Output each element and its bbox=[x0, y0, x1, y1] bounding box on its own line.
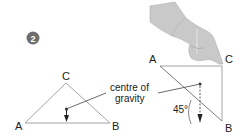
hand-illustration bbox=[150, 2, 223, 64]
diagram-canvas: 2 A C B centre of gravity 45° A C B bbox=[0, 0, 242, 139]
right-vertex-c: C bbox=[225, 53, 233, 65]
annotation-line2: gravity bbox=[115, 93, 144, 104]
right-vertex-a: A bbox=[149, 53, 157, 65]
left-triangle: A C B bbox=[15, 70, 119, 132]
angle-arc bbox=[189, 100, 192, 124]
right-vertex-b: B bbox=[225, 122, 232, 134]
step-badge: 2 bbox=[27, 32, 40, 45]
left-vertex-a: A bbox=[15, 120, 23, 132]
left-vertex-b: B bbox=[112, 120, 119, 132]
step-number: 2 bbox=[30, 34, 35, 44]
right-centre-of-gravity-dot bbox=[198, 82, 201, 85]
arrow-down-icon bbox=[64, 115, 69, 122]
centre-of-gravity-label: centre of gravity bbox=[110, 82, 149, 104]
left-leader-line bbox=[68, 93, 107, 109]
right-leader-line bbox=[158, 85, 198, 94]
right-triangle: 45° A C B bbox=[149, 53, 233, 134]
annotation-line1: centre of bbox=[110, 82, 149, 93]
left-vertex-c: C bbox=[62, 70, 70, 82]
arrow-down-icon bbox=[198, 114, 203, 123]
angle-label: 45° bbox=[173, 104, 188, 115]
